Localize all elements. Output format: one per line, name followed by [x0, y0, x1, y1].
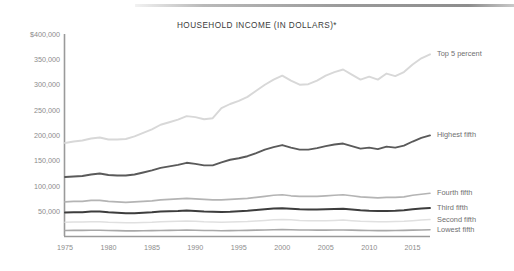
series-labels: Top 5 percentHighest fifthFourth fifthTh… — [437, 49, 482, 233]
series-label-highest-fifth: Highest fifth — [437, 130, 476, 139]
series-lines — [65, 54, 430, 231]
x-axis-tick-label: 2010 — [361, 243, 377, 252]
y-axis-tick-label: 300,000 — [34, 80, 60, 89]
x-axis-tick-label: 2005 — [318, 243, 334, 252]
y-axis-tick-label: 50,000 — [38, 207, 60, 216]
series-line-highest-fifth — [65, 135, 430, 177]
x-axis-tick-label: 1995 — [231, 243, 247, 252]
x-axis-tick-label: 1990 — [187, 243, 203, 252]
x-axis-tick-label: 1975 — [57, 243, 73, 252]
y-axis-tick-label: 250,000 — [34, 106, 60, 115]
y-axis-tick-label: 100,000 — [34, 182, 60, 191]
series-line-second-fifth — [65, 220, 430, 223]
x-axis-tick-label: 1985 — [144, 243, 160, 252]
y-axis-tick-label: 350,000 — [34, 55, 60, 64]
x-axis-tick-label: 2015 — [405, 243, 421, 252]
series-label-second-fifth: Second fifth — [437, 215, 476, 224]
x-axis-labels: 197519801985199019952000200520102015 — [57, 243, 421, 252]
series-line-fourth-fifth — [65, 193, 430, 202]
x-axis-tick-label: 2000 — [274, 243, 290, 252]
series-line-top-5-percent — [65, 54, 430, 143]
y-axis-tick-label: $400,000 — [30, 30, 60, 39]
y-axis-tick-label: 200,000 — [34, 131, 60, 140]
series-label-third-fifth: Third fifth — [437, 203, 468, 212]
series-line-third-fifth — [65, 208, 430, 213]
series-line-lowest-fifth — [65, 230, 430, 231]
line-chart: $400,000350,000300,000250,000200,000150,… — [0, 0, 514, 271]
x-axis-tick-label: 1980 — [100, 243, 116, 252]
chart-area: $400,000350,000300,000250,000200,000150,… — [0, 0, 514, 271]
y-axis-labels: $400,000350,000300,000250,000200,000150,… — [30, 30, 60, 217]
y-axis-tick-label: 150,000 — [34, 156, 60, 165]
series-label-fourth-fifth: Fourth fifth — [437, 188, 472, 197]
series-label-top-5-percent: Top 5 percent — [437, 49, 482, 58]
series-label-lowest-fifth: Lowest fifth — [437, 225, 474, 234]
